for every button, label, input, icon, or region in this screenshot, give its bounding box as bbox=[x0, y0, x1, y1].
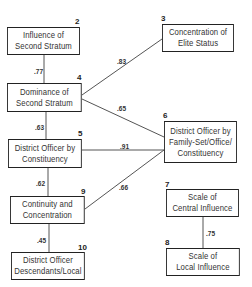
node-number-6: 6 bbox=[163, 112, 167, 120]
node-concentration-of-elite-status: Concentration of Elite Status bbox=[162, 24, 234, 52]
node-number-7: 7 bbox=[165, 181, 169, 189]
node-text-line: Scale of bbox=[188, 192, 217, 203]
edge-label-2-4: .77 bbox=[34, 68, 43, 75]
node-text-line: Second Stratum bbox=[16, 98, 73, 109]
node-number-3: 3 bbox=[161, 15, 165, 23]
node-text-line: District Officer by bbox=[170, 126, 230, 137]
node-text-line: Constituency bbox=[22, 154, 68, 165]
node-text-line: Influence of bbox=[23, 30, 64, 41]
edge-label-9-6: .66 bbox=[119, 184, 128, 191]
node-continuity-and-concentration: Continuity and Concentration bbox=[10, 196, 85, 224]
node-text-line: Second Stratum bbox=[15, 41, 72, 52]
node-text-line: Central Influence bbox=[172, 203, 232, 214]
edge-label-5-9: .62 bbox=[36, 180, 45, 187]
node-text-line: Concentration bbox=[23, 210, 72, 221]
node-district-officer-by-constituency: District Officer by Constituency bbox=[8, 139, 82, 168]
node-number-8: 8 bbox=[165, 239, 169, 247]
node-text-line: Constituency bbox=[178, 148, 224, 159]
node-scale-of-local-influence: Scale of Local Influence bbox=[166, 248, 240, 276]
edge-4-3 bbox=[82, 39, 162, 95]
node-number-2: 2 bbox=[75, 18, 79, 26]
edge-label-9-10: .45 bbox=[37, 237, 46, 244]
edge-9-6 bbox=[85, 150, 164, 209]
node-dominance-of-second-stratum: Dominance of Second Stratum bbox=[7, 83, 82, 112]
node-text-line: Elite Status bbox=[178, 38, 218, 49]
node-text-line: Family-Set/Office/ bbox=[169, 137, 232, 148]
node-number-5: 5 bbox=[78, 130, 82, 138]
node-influence-of-second-stratum: Influence of Second Stratum bbox=[7, 27, 80, 55]
node-text-line: Local Influence bbox=[176, 262, 229, 273]
node-number-9: 9 bbox=[81, 188, 85, 196]
edge-label-4-5: .63 bbox=[35, 124, 44, 131]
node-district-officer-by-family-set-office-constituency: District Officer by Family-Set/Office/ C… bbox=[164, 121, 237, 163]
node-text-line: Descendants/Local bbox=[14, 266, 81, 277]
edge-label-5-6: .91 bbox=[120, 143, 129, 150]
edge-label-7-8: .75 bbox=[206, 230, 215, 237]
node-text-line: District Officer bbox=[23, 255, 73, 266]
node-district-officer-descendants-local: District Officer Descendants/Local bbox=[11, 252, 85, 280]
node-text-line: Dominance of bbox=[20, 87, 69, 98]
node-text-line: Scale of bbox=[189, 251, 218, 262]
edge-label-4-3: .83 bbox=[117, 58, 126, 65]
node-scale-of-central-influence: Scale of Central Influence bbox=[166, 189, 239, 217]
node-text-line: Continuity and bbox=[22, 199, 73, 210]
node-number-4: 4 bbox=[77, 74, 81, 82]
node-text-line: District Officer by bbox=[15, 143, 75, 154]
node-text-line: Concentration of bbox=[169, 27, 227, 38]
node-number-10: 10 bbox=[78, 244, 87, 252]
path-diagram: .77 .83 .65 .63 .91 .62 .66 .45 .75 2 3 … bbox=[0, 0, 252, 287]
edge-label-4-6: .65 bbox=[117, 105, 126, 112]
